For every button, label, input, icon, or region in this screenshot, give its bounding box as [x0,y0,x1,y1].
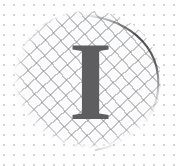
hatched-disc [13,11,161,151]
disc-outline-arc [12,10,162,152]
illustration-canvas: I [0,0,178,166]
